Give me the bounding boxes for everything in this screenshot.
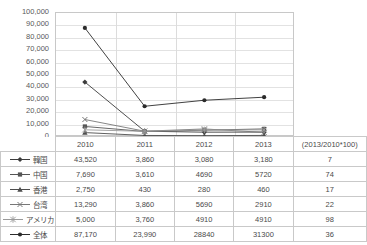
chart-title (0, 0, 367, 3)
table-cell-ratio: 7 (293, 152, 366, 167)
data-point-circle (262, 95, 266, 99)
legend-item-1[interactable]: 中国 (1, 167, 56, 182)
legend-marker-asterisk-icon (3, 215, 23, 224)
series-line (85, 28, 264, 106)
table-cell-value: 28840 (174, 227, 233, 242)
table-row: アメリカ5,0003,7604910491098 (1, 212, 367, 227)
chart-page: 010,00020,00030,00040,00050,00060,00070,… (0, 0, 367, 245)
table-cell-ratio: 36 (293, 227, 366, 242)
table-header-row: 2010201120122013(2013/2010*100) (1, 137, 367, 152)
table-cell-value: 3,860 (115, 197, 174, 212)
table-cell-ratio: 17 (293, 182, 366, 197)
table-cell-value: 3,610 (115, 167, 174, 182)
table-cell-value: 4910 (234, 212, 293, 227)
y-tick-label: 100,000 (22, 8, 49, 16)
table-cell-value: 87,170 (56, 227, 115, 242)
y-tick-label: 30,000 (26, 95, 49, 103)
plot-series-layer (55, 12, 294, 136)
legend-label: 韓国 (33, 154, 47, 165)
table-cell-ratio: 22 (293, 197, 366, 212)
table-cell-value: 430 (115, 182, 174, 197)
data-point-circle (83, 26, 87, 30)
table-cell-value: 31300 (234, 227, 293, 242)
data-point-square (18, 172, 22, 176)
table-cell-value: 3,180 (234, 152, 293, 167)
table-row: 全体87,17023,990288403130036 (1, 227, 367, 242)
table-row: 台湾13,2903,8605690291022 (1, 197, 367, 212)
legend-item-0[interactable]: 韓国 (1, 152, 56, 167)
data-point-circle (18, 232, 22, 236)
y-tick-label: 60,000 (26, 58, 49, 66)
series-5 (83, 26, 266, 109)
legend-label: 全体 (33, 229, 47, 240)
table-cell-value: 23,990 (115, 227, 174, 242)
series-0 (82, 79, 266, 134)
y-tick-label: 50,000 (26, 70, 49, 78)
table-cell-value: 43,520 (56, 152, 115, 167)
table-cell-value: 4690 (174, 167, 233, 182)
column-header-year: 2013 (234, 137, 293, 152)
table-cell-value: 3,860 (115, 152, 174, 167)
legend-marker-circle-icon (10, 230, 30, 239)
column-header-year: 2012 (174, 137, 233, 152)
table-cell-value: 5720 (234, 167, 293, 182)
legend-item-5[interactable]: 全体 (1, 227, 56, 242)
y-axis: 010,00020,00030,00040,00050,00060,00070,… (0, 12, 52, 136)
legend-label: 香港 (33, 184, 47, 195)
table-cell-ratio: 98 (293, 212, 366, 227)
table-cell-value: 4910 (174, 212, 233, 227)
line-chart: 010,00020,00030,00040,00050,00060,00070,… (0, 0, 367, 152)
table-cell-value: 2910 (234, 197, 293, 212)
table-row: 韓国43,5203,8603,0803,1807 (1, 152, 367, 167)
legend-label: アメリカ (26, 214, 54, 225)
y-tick-label: 90,000 (26, 20, 49, 28)
table-body: 韓国43,5203,8603,0803,1807中国7,6903,6104690… (1, 152, 367, 242)
column-header-year: 2011 (115, 137, 174, 152)
y-tick-label: 20,000 (26, 107, 49, 115)
table-cell-ratio: 74 (293, 167, 366, 182)
y-tick-label: 40,000 (26, 82, 49, 90)
legend-item-3[interactable]: 台湾 (1, 197, 56, 212)
legend-marker-cross-icon (10, 200, 30, 209)
table-cell-value: 3,760 (115, 212, 174, 227)
y-tick-label: 10,000 (26, 120, 49, 128)
legend-label: 台湾 (33, 199, 47, 210)
y-tick-label: 80,000 (26, 33, 49, 41)
data-point-circle (202, 98, 206, 102)
column-header-ratio: (2013/2010*100) (293, 137, 366, 152)
data-point-circle (143, 104, 147, 108)
y-tick-label: 70,000 (26, 45, 49, 53)
data-table: 2010201120122013(2013/2010*100) 韓国43,520… (0, 136, 367, 242)
table-cell-value: 280 (174, 182, 233, 197)
table-row: 香港2,75043028046017 (1, 182, 367, 197)
table-cell-value: 2,750 (56, 182, 115, 197)
legend-item-2[interactable]: 香港 (1, 182, 56, 197)
legend-marker-triangle-icon (10, 185, 30, 194)
table-row: 中国7,6903,6104690572074 (1, 167, 367, 182)
table-cell-value: 460 (234, 182, 293, 197)
legend-label: 中国 (33, 169, 47, 180)
table-cell-value: 7,690 (56, 167, 115, 182)
table-cell-value: 5,000 (56, 212, 115, 227)
table-corner (1, 137, 56, 152)
legend-item-4[interactable]: アメリカ (1, 212, 56, 227)
table-cell-value: 3,080 (174, 152, 233, 167)
table-cell-value: 13,290 (56, 197, 115, 212)
legend-marker-diamond-icon (10, 155, 30, 164)
table-cell-value: 5690 (174, 197, 233, 212)
legend-marker-square-icon (10, 170, 30, 179)
data-point-diamond (17, 156, 22, 161)
column-header-year: 2010 (56, 137, 115, 152)
